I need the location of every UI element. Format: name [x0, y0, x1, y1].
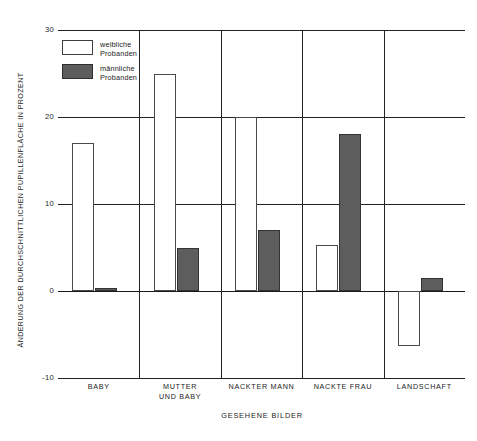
- x-axis-tick-labels: BABYMUTTER UND BABYNACKTER MANNNACKTE FR…: [58, 382, 465, 408]
- gridline-10: [58, 204, 465, 205]
- bar-female-3: [316, 245, 338, 291]
- gridline--10: [58, 378, 465, 379]
- legend-item-male: männliche Probanden: [62, 64, 182, 82]
- x-axis-title: GESEHENE BILDER: [58, 411, 466, 420]
- y-tick-label-30: 30: [24, 25, 54, 34]
- chart-legend: weibliche Probandenmännliche Probanden: [62, 40, 182, 88]
- bar-female-4: [398, 291, 420, 346]
- x-tick-label-0: BABY: [58, 382, 139, 392]
- bar-male-2: [258, 230, 280, 291]
- x-tick-label-3: NACKTE FRAU: [302, 382, 383, 392]
- bar-male-1: [177, 248, 199, 292]
- y-tick-label-20: 20: [24, 112, 54, 121]
- legend-label-male: männliche Probanden: [100, 64, 137, 82]
- legend-swatch-female: [62, 40, 93, 55]
- bar-male-3: [339, 134, 361, 291]
- legend-swatch-male: [62, 64, 93, 79]
- category-separator-4: [384, 30, 385, 378]
- bar-male-0: [95, 288, 117, 291]
- x-tick-label-4: LANDSCHAFT: [384, 382, 465, 392]
- y-tick-label-10: 10: [24, 199, 54, 208]
- y-tick-label-0: 0: [24, 286, 54, 295]
- bar-female-2: [235, 117, 257, 291]
- y-axis-tick-labels: 3020100-10: [18, 30, 54, 378]
- category-separator-2: [221, 30, 222, 378]
- category-separator-3: [302, 30, 303, 378]
- gridline-30: [58, 30, 465, 31]
- legend-item-female: weibliche Probanden: [62, 40, 182, 58]
- bar-male-4: [421, 278, 443, 291]
- x-tick-label-1: MUTTER UND BABY: [139, 382, 220, 401]
- x-tick-label-2: NACKTER MANN: [221, 382, 302, 392]
- y-tick-label--10: -10: [24, 373, 54, 382]
- bar-female-1: [154, 74, 176, 292]
- gridline-20: [58, 117, 465, 118]
- pupil-area-bar-chart: ÄNDERUNG DER DURCHSCHNITTLICHEN PUPILLEN…: [0, 0, 477, 441]
- bar-female-0: [72, 143, 94, 291]
- legend-label-female: weibliche Probanden: [100, 40, 137, 58]
